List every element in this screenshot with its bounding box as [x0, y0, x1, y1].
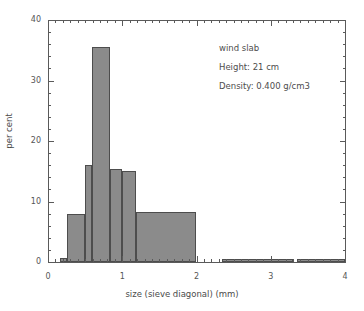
y-axis-tick: [48, 141, 54, 142]
x-axis-tick: [204, 20, 205, 23]
x-axis-tick: [189, 259, 190, 262]
x-axis-tick: [278, 259, 279, 262]
x-axis-tick: [204, 259, 205, 262]
x-axis-tick: [107, 259, 108, 262]
x-axis-tick: [338, 259, 339, 262]
x-axis-tick: [271, 256, 272, 262]
x-axis-tick: [145, 259, 146, 262]
x-axis-tick: [159, 259, 160, 262]
y-axis-tick: [48, 177, 51, 178]
x-axis-tick: [70, 259, 71, 262]
x-axis-tick: [100, 259, 101, 262]
y-axis-tick: [48, 250, 51, 251]
x-axis-tick: [286, 259, 287, 262]
y-axis-tick: [343, 165, 346, 166]
y-axis-tick: [48, 262, 54, 263]
x-axis-tick: [248, 259, 249, 262]
x-axis-tick: [130, 20, 131, 23]
x-axis-tick: [174, 20, 175, 23]
y-axis-tick: [48, 189, 51, 190]
x-axis-tick: [256, 20, 257, 23]
x-axis-tick: [122, 256, 123, 262]
x-axis-tick: [159, 20, 160, 23]
x-axis-tick: [308, 259, 309, 262]
histogram-bar: [67, 214, 86, 262]
x-axis-tick: [85, 259, 86, 262]
x-axis-tick: [55, 20, 56, 23]
histogram-bar: [136, 212, 197, 262]
y-axis-tick: [48, 129, 51, 130]
y-axis-tick: [48, 93, 51, 94]
y-axis-tick: [48, 32, 51, 33]
y-axis-tick: [48, 153, 51, 154]
x-axis-tick: [330, 259, 331, 262]
y-axis-tick: [48, 165, 51, 166]
x-tick-label: 2: [187, 272, 207, 281]
x-axis-tick: [300, 20, 301, 23]
x-axis-tick: [323, 20, 324, 23]
y-axis-tick: [340, 81, 346, 82]
histogram-bar: [110, 169, 122, 262]
x-axis-tick: [300, 259, 301, 262]
y-axis-tick: [340, 262, 346, 263]
x-axis-tick: [55, 259, 56, 262]
y-axis-tick: [48, 20, 54, 21]
x-axis-tick: [256, 259, 257, 262]
y-tick-label: 30: [19, 76, 41, 85]
x-axis-tick: [323, 259, 324, 262]
x-axis-tick: [263, 20, 264, 23]
y-axis-tick: [343, 117, 346, 118]
y-axis-tick: [48, 68, 51, 69]
y-axis-tick: [340, 202, 346, 203]
y-axis-tick: [48, 81, 54, 82]
y-axis-title: per cent: [4, 101, 14, 161]
y-axis-tick: [343, 226, 346, 227]
x-axis-tick: [226, 259, 227, 262]
x-axis-tick: [130, 259, 131, 262]
x-axis-tick: [107, 20, 108, 23]
x-axis-tick: [211, 259, 212, 262]
x-axis-tick: [263, 259, 264, 262]
x-axis-tick: [137, 20, 138, 23]
y-axis-tick: [340, 141, 346, 142]
x-axis-tick: [70, 20, 71, 23]
y-tick-label: 20: [19, 136, 41, 145]
y-axis-tick: [343, 68, 346, 69]
x-axis-tick: [226, 20, 227, 23]
x-axis-tick: [100, 20, 101, 23]
x-axis-tick: [152, 20, 153, 23]
y-axis-tick: [48, 226, 51, 227]
x-axis-tick: [145, 20, 146, 23]
y-axis-tick: [343, 44, 346, 45]
annotation-height: Height: 21 cm: [219, 62, 279, 72]
y-axis-tick: [343, 153, 346, 154]
x-axis-tick: [152, 259, 153, 262]
y-axis-tick: [48, 44, 51, 45]
x-axis-tick: [93, 20, 94, 23]
y-axis-tick: [343, 129, 346, 130]
x-axis-tick: [308, 20, 309, 23]
x-axis-tick: [189, 20, 190, 23]
x-axis-tick: [234, 20, 235, 23]
y-axis-tick: [343, 56, 346, 57]
x-axis-tick: [85, 20, 86, 23]
x-axis-tick: [63, 20, 64, 23]
x-axis-tick: [248, 20, 249, 23]
x-axis-tick: [167, 259, 168, 262]
y-axis-tick: [343, 32, 346, 33]
x-axis-tick: [63, 259, 64, 262]
y-axis-tick: [343, 214, 346, 215]
x-axis-tick: [78, 20, 79, 23]
y-axis-tick: [343, 189, 346, 190]
y-axis-tick: [48, 117, 51, 118]
y-tick-label: 10: [19, 197, 41, 206]
x-axis-title: size (sieve diagonal) (mm): [0, 289, 364, 299]
x-axis-tick: [286, 20, 287, 23]
x-axis-line: [48, 262, 346, 263]
histogram-bar: [92, 47, 111, 262]
x-axis-tick: [182, 20, 183, 23]
x-tick-label: 3: [261, 272, 281, 281]
y-axis-tick: [48, 105, 51, 106]
x-axis-tick: [211, 20, 212, 23]
x-axis-tick: [241, 259, 242, 262]
